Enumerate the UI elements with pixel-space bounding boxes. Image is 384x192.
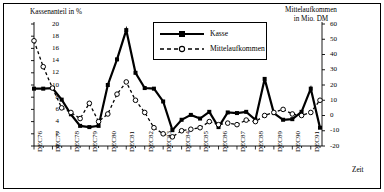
data-point-mittelaufkommen-24 [253,119,258,124]
data-point-kasse-0 [32,87,36,91]
data-point-mittelaufkommen-19 [207,119,212,124]
data-point-mittelaufkommen-4 [69,110,74,115]
data-point-kasse-13 [152,87,156,91]
data-point-kasse-1 [41,87,45,91]
data-point-mittelaufkommen-9 [115,92,120,97]
data-point-mittelaufkommen-0 [32,38,37,43]
data-point-kasse-10 [124,28,128,32]
data-point-mittelaufkommen-15 [170,135,175,140]
data-point-mittelaufkommen-25 [262,113,267,118]
data-point-mittelaufkommen-29 [299,113,304,118]
data-point-mittelaufkommen-20 [216,122,221,127]
data-point-mittelaufkommen-13 [152,125,157,130]
data-point-kasse-31 [318,126,322,130]
data-point-kasse-21 [226,110,230,114]
data-point-kasse-15 [170,128,174,132]
data-point-mittelaufkommen-17 [189,127,194,132]
data-point-mittelaufkommen-27 [281,107,286,112]
data-point-mittelaufkommen-22 [235,122,240,127]
data-point-mittelaufkommen-30 [308,110,313,115]
data-point-kasse-22 [235,111,239,115]
data-point-kasse-17 [189,113,193,117]
data-point-mittelaufkommen-21 [225,121,230,126]
data-point-mittelaufkommen-1 [41,64,46,69]
data-point-mittelaufkommen-18 [198,125,203,130]
legend-item-kasse: Kasse [210,28,228,40]
data-point-kasse-23 [244,110,248,114]
chart-legend: Kasse Mittelaufkommen [153,22,267,60]
data-point-mittelaufkommen-8 [106,112,111,117]
data-point-kasse-25 [263,77,267,81]
data-point-kasse-8 [106,83,110,87]
data-point-mittelaufkommen-28 [290,112,295,117]
data-point-mittelaufkommen-10 [124,80,129,85]
data-point-kasse-14 [161,99,165,103]
data-point-mittelaufkommen-3 [59,106,64,111]
data-point-kasse-30 [309,87,313,91]
data-point-mittelaufkommen-11 [133,98,138,103]
data-point-kasse-5 [78,124,82,128]
data-point-kasse-11 [133,71,137,75]
data-point-mittelaufkommen-14 [161,132,166,137]
data-point-kasse-19 [207,110,211,114]
data-point-kasse-28 [290,117,294,121]
data-point-kasse-6 [87,125,91,129]
data-point-kasse-3 [60,98,64,102]
data-point-mittelaufkommen-5 [78,116,83,121]
data-point-kasse-18 [198,117,202,121]
data-point-mittelaufkommen-23 [244,118,249,123]
data-point-kasse-9 [115,57,119,61]
data-point-kasse-16 [180,118,184,122]
data-point-mittelaufkommen-26 [272,110,277,115]
data-point-kasse-12 [143,86,147,90]
data-point-mittelaufkommen-12 [142,110,147,115]
chart-figure: Kassenanteil in % Mittelaufkommen in Mio… [0,0,384,192]
data-point-kasse-7 [97,124,101,128]
data-point-kasse-27 [281,118,285,122]
data-point-mittelaufkommen-7 [96,119,101,124]
legend-item-mittelaufkommen: Mittelaufkommen [210,43,265,55]
data-point-mittelaufkommen-31 [318,98,323,103]
data-point-mittelaufkommen-2 [50,86,55,91]
data-point-mittelaufkommen-16 [179,128,184,133]
data-point-mittelaufkommen-6 [87,101,92,106]
